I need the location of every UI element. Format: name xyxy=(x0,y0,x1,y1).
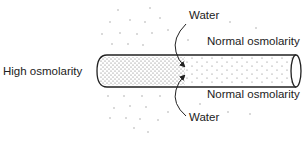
tubule xyxy=(97,55,301,87)
normal-osmolarity-region xyxy=(185,57,295,85)
water-label-top: Water xyxy=(189,10,219,22)
tubule-opening xyxy=(291,55,301,87)
high-osmolarity-label: High osmolarity xyxy=(3,66,82,78)
water-label-bottom: Water xyxy=(189,112,219,124)
normal-osmolarity-label-top: Normal osmolarity xyxy=(207,36,300,48)
high-osmolarity-region xyxy=(100,57,185,85)
normal-osmolarity-label-bottom: Normal osmolarity xyxy=(207,89,300,101)
